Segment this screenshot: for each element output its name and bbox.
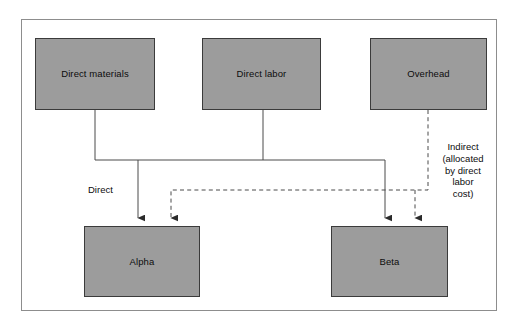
node-label-overhead: Overhead — [407, 69, 450, 79]
node-beta[interactable]: Beta — [331, 226, 448, 297]
node-label-direct-materials: Direct materials — [61, 69, 129, 79]
edge-label-indirect: Indirect (allocated by direct labor cost… — [432, 141, 494, 200]
diagram-canvas: Direct materials Direct labor Overhead A… — [0, 0, 516, 328]
edge-label-direct: Direct — [88, 184, 113, 196]
node-direct-labor[interactable]: Direct labor — [202, 38, 321, 110]
node-label-direct-labor: Direct labor — [237, 69, 287, 79]
node-direct-materials[interactable]: Direct materials — [35, 38, 155, 110]
node-overhead[interactable]: Overhead — [370, 38, 487, 110]
node-label-beta: Beta — [380, 257, 400, 267]
node-alpha[interactable]: Alpha — [84, 226, 200, 297]
node-label-alpha: Alpha — [130, 257, 155, 267]
